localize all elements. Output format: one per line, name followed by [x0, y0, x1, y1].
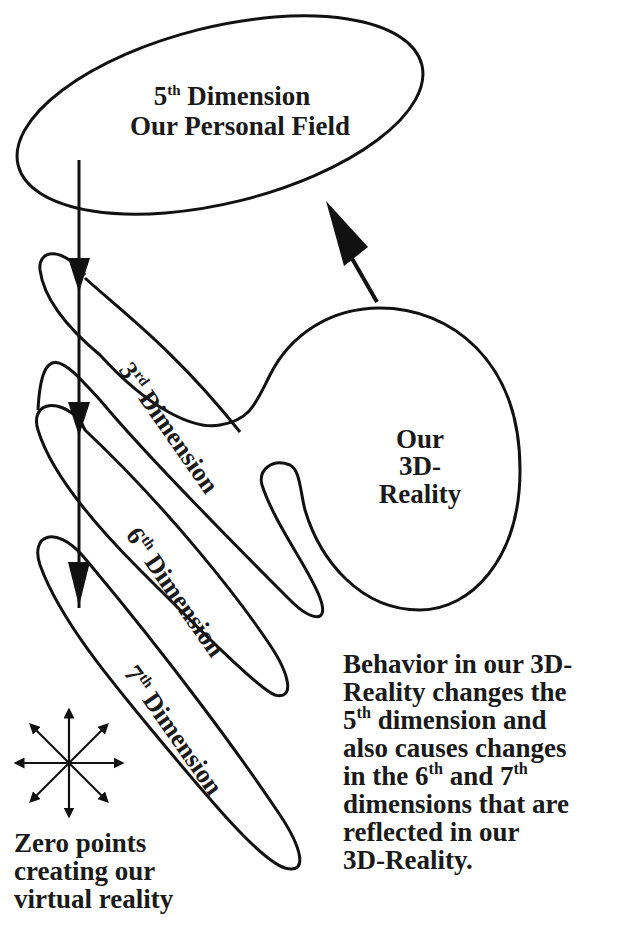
caption-line: creating our: [14, 857, 224, 885]
seventh-dimension-label: 7th Dimension: [118, 660, 229, 801]
behavior-line: 5th dimension and: [343, 706, 618, 734]
caption-line: Zero points: [14, 829, 224, 857]
personal-field-title: Our Personal Field: [130, 111, 350, 141]
behavior-line: 3D-Reality.: [343, 846, 618, 874]
behavior-line: dimensions that are: [343, 790, 618, 818]
behavior-line: in the 6th and 7th: [343, 762, 618, 790]
behavior-line: Reality changes the: [343, 678, 618, 706]
behavior-explanation: Behavior in our 3D- Reality changes the …: [343, 650, 618, 874]
fifth-dimension-title: 5th Dimension: [154, 81, 311, 111]
behavior-line: Behavior in our 3D-: [343, 650, 618, 678]
up-left-arrow-icon: [326, 201, 368, 266]
eight-direction-arrows-icon: [19, 713, 119, 813]
down-arrow-icon: [68, 562, 90, 606]
caption-line: virtual reality: [14, 885, 224, 913]
reality-label-line2: 3D-: [399, 451, 441, 481]
reality-label-line1: Our: [396, 424, 444, 454]
down-arrow-icon: [68, 258, 90, 292]
reality-label-line3: Reality: [379, 479, 462, 509]
sixth-dimension-label: 6th Dimension: [120, 522, 231, 663]
feedback-arrow: [326, 201, 377, 302]
behavior-line: also causes changes: [343, 734, 618, 762]
behavior-line: reflected in our: [343, 818, 618, 846]
zero-points-caption: Zero points creating our virtual reality: [14, 829, 224, 913]
